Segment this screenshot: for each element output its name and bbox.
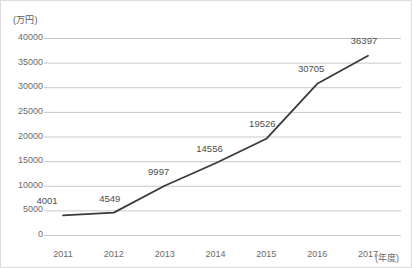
x-axis-tick-label: 2015 xyxy=(246,249,286,259)
line-chart: (万円) 05000100001500020000250003000035000… xyxy=(0,0,412,268)
x-axis-tick-label: 2011 xyxy=(43,249,83,259)
x-axis-tick-label: 2016 xyxy=(297,249,337,259)
y-axis-tick-label: 25000 xyxy=(1,106,43,116)
data-point-label: 4549 xyxy=(87,193,133,204)
y-axis-tick-label: 20000 xyxy=(1,131,43,141)
data-point-label: 36397 xyxy=(341,35,387,46)
data-point-label: 4001 xyxy=(24,195,70,206)
x-axis-tick-label: 2014 xyxy=(196,249,236,259)
data-point-label: 9997 xyxy=(136,166,182,177)
y-axis-tick-label: 30000 xyxy=(1,81,43,91)
data-point-label: 30705 xyxy=(288,63,334,74)
x-axis-unit-label: (年度) xyxy=(375,251,399,264)
x-axis-tick-label: 2013 xyxy=(145,249,185,259)
data-line-series-1 xyxy=(63,56,368,216)
x-axis-tick-label: 2012 xyxy=(94,249,134,259)
y-axis-tick-label: 40000 xyxy=(1,32,43,42)
y-axis-tick-label: 15000 xyxy=(1,155,43,165)
data-point-label: 14556 xyxy=(187,143,233,154)
data-point-label: 19526 xyxy=(239,118,285,129)
y-axis-tick-label: 10000 xyxy=(1,180,43,190)
y-axis-tick-label: 35000 xyxy=(1,57,43,67)
y-axis-tick-label: 0 xyxy=(1,229,43,239)
